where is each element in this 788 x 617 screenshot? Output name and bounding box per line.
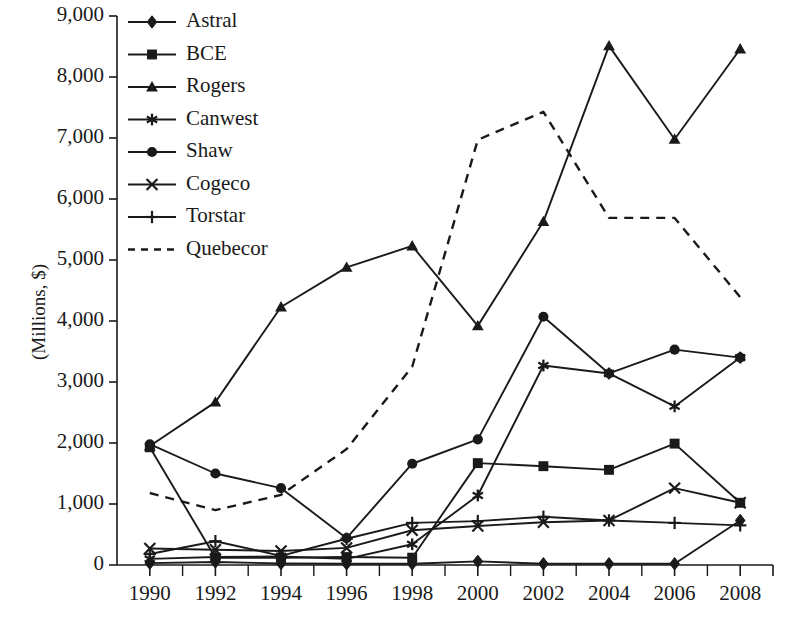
data-point-marker <box>276 483 286 493</box>
series-bce <box>145 439 745 563</box>
data-point-marker <box>670 558 680 570</box>
data-point-marker <box>473 458 483 468</box>
plot-area <box>0 0 788 617</box>
data-point-marker <box>407 553 417 563</box>
data-point-marker <box>538 461 548 471</box>
data-point-marker <box>539 558 549 570</box>
series-line <box>150 46 740 446</box>
legend-marker-plus-icon <box>146 211 158 223</box>
series-line <box>150 317 740 538</box>
data-point-marker <box>473 434 483 444</box>
legend-item-cogeco[interactable] <box>128 179 176 190</box>
series-line <box>150 444 740 558</box>
legend-item-shaw[interactable] <box>128 147 176 157</box>
chart-container: (Millions, $) 01,0002,0003,0004,0005,000… <box>0 0 788 617</box>
data-point-marker <box>406 240 418 250</box>
legend-item-canwest[interactable] <box>128 114 176 126</box>
data-point-marker <box>735 353 745 363</box>
data-point-marker <box>734 43 746 53</box>
series-torstar <box>144 511 747 562</box>
data-point-marker <box>604 368 614 378</box>
data-point-marker <box>473 490 483 502</box>
legend-marker-square-icon <box>147 50 157 60</box>
legend-marker-circle-icon <box>147 147 157 157</box>
legend-item-astral[interactable] <box>128 16 176 28</box>
data-point-marker <box>407 459 417 469</box>
series-quebecor <box>150 112 740 510</box>
legend-marker-diamond-icon <box>147 16 157 28</box>
data-point-marker <box>275 301 287 311</box>
data-point-marker <box>670 345 680 355</box>
series-rogers <box>144 40 746 451</box>
legend-item-rogers[interactable] <box>128 81 176 91</box>
data-point-marker <box>145 439 155 449</box>
data-point-marker <box>604 558 614 570</box>
data-point-marker <box>537 511 549 523</box>
series-canwest <box>145 352 746 565</box>
series-shaw <box>145 312 746 544</box>
axes <box>109 16 773 576</box>
legend-item-bce[interactable] <box>128 50 176 60</box>
legend-glyphs <box>128 16 176 250</box>
series-line <box>150 112 740 510</box>
data-point-marker <box>538 312 548 322</box>
data-point-marker <box>668 517 680 529</box>
legend-item-torstar[interactable] <box>128 211 176 223</box>
data-point-marker <box>604 465 614 475</box>
data-point-marker <box>538 216 550 226</box>
data-point-marker <box>603 40 615 50</box>
data-point-marker <box>210 468 220 478</box>
data-point-marker <box>669 401 679 413</box>
data-point-marker <box>670 439 680 449</box>
data-series-group <box>144 40 747 570</box>
